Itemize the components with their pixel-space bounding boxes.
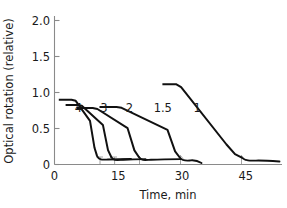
curve-1-5 — [100, 107, 181, 158]
series-label-1: 1 — [194, 101, 201, 115]
x-tick-label-15: 15 — [111, 169, 126, 183]
y-tick-label-0-5: 0.5 — [32, 122, 50, 136]
curve-1-tail — [242, 158, 280, 162]
y-tick-label-0: 0 — [43, 158, 50, 172]
x-tick-label-45: 45 — [238, 169, 253, 183]
curve-group-1p5 — [100, 107, 202, 163]
x-axis-title: Time, min — [138, 188, 196, 202]
y-tick-label-2-0: 2.0 — [32, 14, 50, 28]
curve-group-1 — [162, 84, 279, 161]
x-tick-label-30: 30 — [175, 169, 190, 183]
x-tick-label-0: 0 — [51, 169, 58, 183]
chart-figure: 2.0 1.5 1.0 0.5 0 0 15 30 45 Time, min O… — [0, 0, 287, 208]
y-axis-ticks — [55, 21, 60, 165]
y-tick-label-1-5: 1.5 — [32, 50, 50, 64]
y-axis-title: Optical rotation (relative) — [2, 18, 16, 163]
optical-rotation-line-chart: 2.0 1.5 1.0 0.5 0 0 15 30 45 Time, min O… — [0, 0, 287, 208]
series-label-2: 2 — [126, 101, 133, 115]
series-label-3: 3 — [100, 101, 107, 115]
series-label-1-5: 1.5 — [154, 101, 172, 115]
y-tick-label-1-0: 1.0 — [32, 86, 50, 100]
series-label-4: 4 — [75, 101, 82, 115]
